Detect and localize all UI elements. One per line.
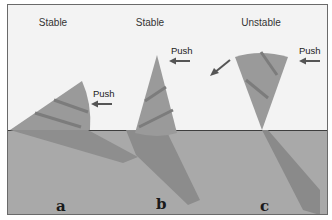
- shadow-a: [10, 130, 138, 163]
- cone-a: [10, 81, 90, 130]
- heading-b: Stable: [115, 17, 185, 28]
- diagram-graphics: [8, 5, 328, 215]
- shadow-b: [126, 130, 200, 205]
- push-arrow-a: [91, 101, 112, 108]
- caption-a: a: [56, 197, 66, 215]
- stability-diagram: Stable Stable Unstable Push Push Push a …: [7, 4, 328, 215]
- tip-direction-arrow: [210, 60, 230, 76]
- push-label-a: Push: [93, 88, 115, 99]
- caption-b: b: [156, 195, 167, 213]
- shadow-c: [262, 130, 320, 215]
- push-arrow-c: [299, 58, 320, 65]
- cone-c: [235, 52, 288, 130]
- push-arrow-b: [169, 58, 190, 65]
- push-label-c: Push: [299, 45, 321, 56]
- caption-c: c: [260, 197, 269, 215]
- heading-c: Unstable: [226, 17, 296, 28]
- push-label-b: Push: [171, 45, 193, 56]
- heading-a: Stable: [18, 17, 88, 28]
- cone-b: [135, 55, 177, 136]
